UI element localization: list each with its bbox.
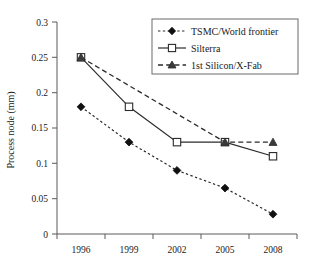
x-tick-label-2008: 2008 — [264, 245, 283, 255]
series-layer — [77, 53, 277, 218]
series-0 — [77, 103, 277, 218]
y-tick-label-0: 0 — [43, 230, 48, 240]
data-point-triangle — [269, 138, 277, 145]
process-node-line-chart: Process node (mm) 0.3 0.25 0.2 0.15 0.1 … — [0, 0, 309, 269]
data-point-square — [173, 138, 180, 145]
chart-canvas: Process node (mm) 0.3 0.25 0.2 0.15 0.1 … — [0, 0, 309, 269]
x-tick-label-1999: 1999 — [120, 245, 139, 255]
y-tick-label-0.3: 0.3 — [36, 18, 48, 28]
data-point-diamond — [77, 103, 85, 111]
legend-label-tsmc: TSMC/World frontier — [191, 26, 279, 37]
data-point-square — [125, 103, 132, 110]
legend-marker-open-square — [168, 44, 175, 51]
y-tick-label-0.15: 0.15 — [31, 123, 48, 133]
chart-legend: TSMC/World frontier Silterra 1st Silicon… — [152, 19, 298, 74]
y-axis-title: Process node (mm) — [5, 91, 17, 168]
legend-label-1st-silicon: 1st Silicon/X-Fab — [191, 60, 262, 71]
series-line-0 — [81, 107, 273, 214]
data-point-square — [269, 153, 276, 160]
y-tick-label-0.1: 0.1 — [36, 159, 48, 169]
data-point-diamond — [125, 138, 133, 146]
x-tick-label-2002: 2002 — [168, 245, 187, 255]
legend-label-silterra: Silterra — [191, 43, 221, 54]
y-tick-label-0.2: 0.2 — [36, 88, 48, 98]
data-point-diamond — [269, 210, 277, 218]
data-point-diamond — [221, 184, 229, 192]
y-tick-label-0.05: 0.05 — [31, 194, 48, 204]
y-tick-label-0.25: 0.25 — [31, 53, 48, 63]
data-point-diamond — [173, 167, 181, 175]
x-tick-label-1996: 1996 — [72, 245, 91, 255]
x-tick-label-2005: 2005 — [216, 245, 235, 255]
